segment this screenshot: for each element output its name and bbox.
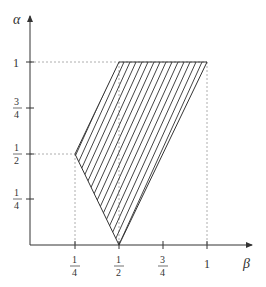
y-tick-3-4: 3 4: [13, 96, 22, 120]
x-tick-1-2: 1 2: [114, 254, 124, 278]
x-tick-1-4: 1 4: [70, 254, 80, 278]
svg-text:2: 2: [14, 155, 19, 166]
y-tick-1-4: 1 4: [13, 187, 22, 211]
svg-text:4: 4: [14, 109, 19, 120]
svg-text:1: 1: [14, 142, 19, 153]
svg-text:4: 4: [72, 267, 77, 278]
y-tick-1-2: 1 2: [13, 142, 22, 166]
region-diagram: α β 1 3 4 1 2 1 4 1 4 1 2 3 4 1: [0, 0, 266, 287]
svg-text:1: 1: [72, 254, 77, 265]
svg-text:3: 3: [160, 254, 165, 265]
svg-text:4: 4: [14, 200, 19, 211]
axis-ticks: [26, 62, 207, 249]
x-tick-1: 1: [204, 257, 210, 271]
svg-text:3: 3: [14, 96, 19, 107]
svg-text:1: 1: [116, 254, 121, 265]
svg-text:4: 4: [160, 267, 165, 278]
hatched-region: [22, 40, 230, 260]
y-axis-label: α: [13, 12, 21, 27]
svg-text:1: 1: [14, 187, 19, 198]
x-axis-label: β: [242, 256, 250, 271]
y-tick-1: 1: [13, 56, 19, 70]
x-tick-3-4: 3 4: [158, 254, 168, 278]
svg-text:2: 2: [116, 267, 121, 278]
